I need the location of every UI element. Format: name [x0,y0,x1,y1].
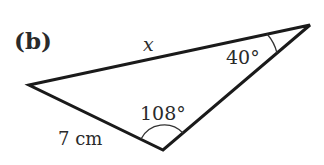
triangle-diagram: (b) x 40° 108° 7 cm [0,0,324,165]
side-label-7cm: 7 cm [58,128,102,149]
angle-label-40: 40° [226,46,260,68]
side-label-x: x [143,33,154,55]
angle-label-108: 108° [140,102,186,124]
angle-arc-40 [267,34,277,53]
part-label: (b) [14,27,52,54]
